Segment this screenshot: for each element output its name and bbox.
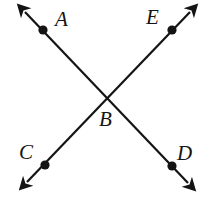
point-label-a: A (55, 9, 68, 30)
point-label-d: D (177, 143, 192, 164)
point-label-e: E (146, 7, 159, 28)
point-label-c: C (19, 142, 33, 163)
point-dot-e (167, 25, 176, 34)
geometry-figure: A E B C D (0, 0, 202, 198)
point-dot-c (40, 160, 49, 169)
point-dot-a (38, 25, 47, 34)
point-dot-d (167, 161, 176, 170)
point-label-b: B (99, 109, 112, 130)
geometry-canvas (0, 0, 202, 198)
line-ce (27, 12, 190, 182)
